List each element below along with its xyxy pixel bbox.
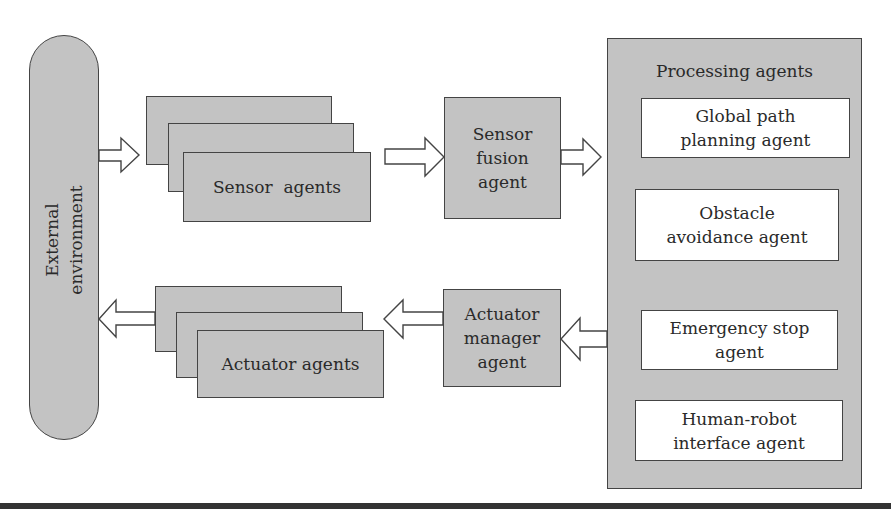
diagram-canvas: External environment Sensor agents Senso… [0,0,891,523]
arrow-left-icon [561,318,607,360]
arrow-right-icon [99,138,139,172]
arrow-right-icon [561,139,601,175]
arrow-left-icon [384,300,443,338]
arrow-right-icon [385,138,444,176]
bottom-divider-rule [0,503,891,509]
arrow-left-icon [99,300,155,337]
flow-arrows [0,0,891,523]
